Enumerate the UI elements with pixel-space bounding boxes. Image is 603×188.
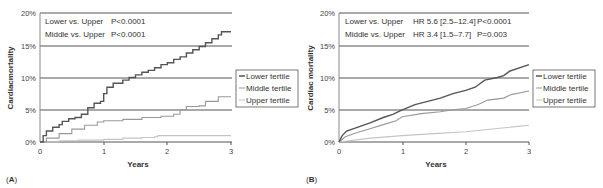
- annotation-lower-p: P<0.0001: [477, 17, 512, 26]
- x-tick-1: 1: [102, 147, 106, 156]
- x-tick-2: 2: [165, 147, 169, 156]
- y-axis-title: Cardiacmortality: [6, 46, 15, 110]
- x-tick-1: 1: [401, 147, 405, 156]
- annotation-middle-vs-upper: Middle vs. Upper: [45, 30, 105, 39]
- annotation-middle-hr: HR 3.4 [1.5–7.7]: [413, 30, 471, 39]
- y-tick-0: 0%: [324, 138, 335, 147]
- series-line-middle: [339, 91, 529, 142]
- x-axis-title: Years: [127, 160, 149, 169]
- annotation-lower-vs-upper: Lower vs. Upper: [45, 17, 104, 26]
- y-tick-0: 0%: [25, 138, 36, 147]
- chart-a-svg: 20% 15% 10% 5% 0% 0 1 2 3 Years Cardiacm…: [0, 0, 300, 188]
- series-line-upper: [339, 125, 529, 142]
- series-line-lower: [339, 65, 529, 142]
- y-tick-5: 5%: [25, 106, 36, 115]
- y-tick-5: 5%: [324, 106, 335, 115]
- annotation-lower-vs-upper: Lower vs. Upper: [345, 17, 404, 26]
- x-tick-2: 2: [464, 147, 468, 156]
- legend-label-lower: Lower tertile: [246, 72, 290, 81]
- y-tick-20: 20%: [320, 9, 335, 18]
- annotation-middle-p: P=0.003: [477, 30, 508, 39]
- series-line-upper: [40, 136, 231, 142]
- x-tick-0: 0: [38, 147, 42, 156]
- legend: Lower tertile Middle tertile Upper terti…: [236, 70, 298, 107]
- annotation-middle-vs-upper: Middle vs. Upper: [345, 30, 405, 39]
- chart-b-svg: 20% 15% 10% 5% 0% 0 1 2 3 Years Cardiac …: [300, 0, 603, 188]
- series-group: [339, 65, 529, 142]
- y-tick-10: 10%: [320, 74, 335, 83]
- panel-label-b: (B): [306, 175, 317, 184]
- legend-label-upper: Upper tertile: [246, 96, 290, 105]
- x-tick-3: 3: [527, 147, 531, 156]
- y-tick-15: 15%: [21, 42, 36, 51]
- chart-panel-b: 20% 15% 10% 5% 0% 0 1 2 3 Years Cardiac …: [300, 0, 600, 188]
- y-tick-15: 15%: [320, 42, 335, 51]
- x-tick-3: 3: [229, 147, 233, 156]
- annotation-lower-hr: HR 5.6 [2.5–12.4]: [413, 17, 476, 26]
- annotation-lower-p: P<0.0001: [111, 17, 146, 26]
- y-tick-10: 10%: [21, 74, 36, 83]
- x-tick-0: 0: [337, 147, 341, 156]
- gridlines: [339, 13, 529, 110]
- legend-label-middle: Middle tertile: [543, 84, 589, 93]
- legend-label-lower: Lower tertile: [543, 72, 587, 81]
- series-group: [40, 32, 231, 142]
- x-axis-title: Years: [425, 160, 447, 169]
- series-line-lower: [40, 32, 231, 142]
- chart-panel-a: 20% 15% 10% 5% 0% 0 1 2 3 Years Cardiacm…: [0, 0, 300, 188]
- legend: Lower tertile Middle tertile Upper terti…: [533, 70, 595, 107]
- gridlines: [40, 13, 232, 110]
- legend-label-upper: Upper tertile: [543, 96, 587, 105]
- panel-label-a: (A): [6, 175, 17, 184]
- annotation-middle-p: P<0.0001: [111, 30, 146, 39]
- y-tick-20: 20%: [21, 9, 36, 18]
- y-axis-title: Cardiac mortality: [306, 45, 315, 111]
- legend-label-middle: Middle tertile: [246, 84, 292, 93]
